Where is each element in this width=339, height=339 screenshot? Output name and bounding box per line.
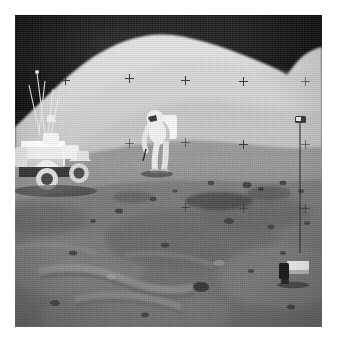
gnomon-pole: [283, 107, 317, 257]
equipment-top-panel: [287, 261, 309, 270]
suit-right-leg: [164, 141, 166, 169]
lrv-shape: [15, 55, 125, 205]
lrv-pallet: [15, 147, 27, 167]
astronaut-shape: [133, 97, 197, 179]
ground-equipment-shape: [271, 253, 317, 293]
page-root: Apollo Lunar Surface Scene Black-and-whi…: [0, 0, 339, 339]
ground-equipment: [271, 253, 317, 293]
antenna-tip: [35, 70, 39, 74]
equipment-shadow: [277, 282, 309, 288]
astronaut: [133, 97, 197, 179]
lrv-console: [43, 133, 59, 145]
equipment-dark-box: [279, 263, 289, 279]
tv-camera: [47, 115, 56, 122]
lrv-equipment-box: [61, 145, 79, 159]
lunar-surface-photograph: [15, 15, 322, 327]
lunar-roving-vehicle: [15, 55, 125, 205]
gnomon-shape: [283, 107, 317, 257]
suit-left-leg: [155, 143, 157, 169]
high-gain-antenna-mast: [29, 73, 58, 135]
suit-arm: [144, 127, 148, 151]
